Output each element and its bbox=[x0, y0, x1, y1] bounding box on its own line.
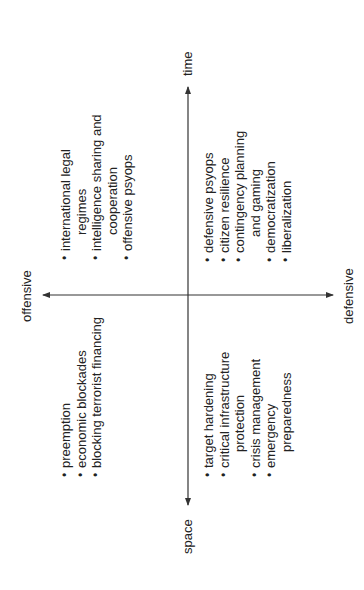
list-item: defensive psyops bbox=[201, 131, 217, 262]
axis-label-space: space bbox=[180, 519, 195, 554]
list-item: crisis management bbox=[248, 352, 264, 477]
quadrant-offensive-space: preemption economic blockades blocking t… bbox=[58, 317, 105, 477]
axis-label-time: time bbox=[180, 51, 195, 76]
list-item: democratization bbox=[263, 131, 279, 262]
list-item: international legalregimes bbox=[58, 114, 89, 260]
list-item: offensive psyops bbox=[120, 114, 136, 260]
quadrant-offensive-time: international legalregimes intelligence … bbox=[58, 114, 136, 260]
list-item: target hardening bbox=[201, 352, 217, 477]
list-item: citizen resilience bbox=[217, 131, 233, 262]
list-item: blocking terrorist financing bbox=[89, 317, 105, 477]
axis-label-offensive: offensive bbox=[19, 270, 34, 322]
list-item: critical infrastructureprotection bbox=[217, 352, 248, 477]
quadrant-defensive-space: target hardening critical infrastructure… bbox=[201, 352, 294, 477]
axes bbox=[0, 0, 364, 590]
list-item: intelligence sharing andcooperation bbox=[89, 114, 120, 260]
quadrant-diagram: space time offensive defensive preemptio… bbox=[0, 0, 364, 590]
axis-label-defensive: defensive bbox=[341, 268, 356, 324]
list-item: contingency planningand gaming bbox=[232, 131, 263, 262]
list-item: preemption bbox=[58, 317, 74, 477]
list-item: liberalization bbox=[279, 131, 295, 262]
list-item: economic blockades bbox=[74, 317, 90, 477]
list-item: emergencypreparedness bbox=[263, 352, 294, 477]
quadrant-defensive-time: defensive psyops citizen resilience cont… bbox=[201, 131, 294, 262]
